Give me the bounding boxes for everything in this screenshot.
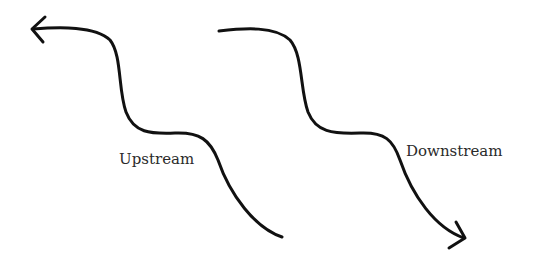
arrows-svg	[0, 0, 539, 269]
diagram-canvas: Upstream Downstream	[0, 0, 539, 269]
upstream-arrow-curve	[33, 28, 282, 237]
downstream-label: Downstream	[406, 142, 503, 160]
upstream-label: Upstream	[119, 150, 194, 168]
downstream-arrow-curve	[219, 29, 464, 238]
